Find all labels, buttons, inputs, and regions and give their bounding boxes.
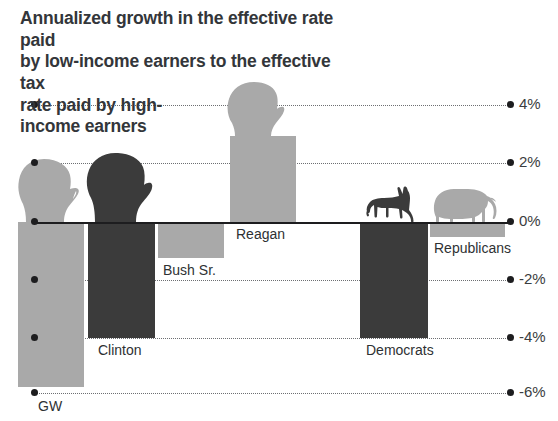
tick-dot-right-4: [507, 101, 514, 108]
bar-label-republicans: Republicans: [434, 240, 511, 256]
bar-label-reagan: Reagan: [236, 226, 285, 242]
tick-dot-right-minus-2: [507, 276, 514, 283]
gridline-minus-6: [34, 393, 510, 394]
ytick-label-minus-4: -4%: [519, 328, 546, 345]
bar-label-democrats: Democrats: [366, 342, 434, 358]
donkey-icon: [366, 186, 426, 223]
ytick-label-minus-2: -2%: [519, 270, 546, 287]
gridline-minus-4: [34, 338, 510, 339]
ytick-label-0: 0%: [519, 212, 541, 229]
tick-dot-right-minus-4: [507, 334, 514, 341]
page-title: Annualized growth in the effective rate …: [20, 8, 350, 138]
bar-label-gw: GW: [38, 398, 62, 414]
bar-clinton[interactable]: [88, 222, 155, 338]
bar-label-clinton: Clinton: [98, 342, 142, 358]
head-silhouette-light-icon: [14, 158, 88, 222]
axis-zero-line: [34, 222, 510, 224]
tick-dot-right-minus-6: [507, 389, 514, 396]
tick-dot-left-minus-4: [31, 334, 38, 341]
head-silhouette-dark-icon: [84, 152, 160, 222]
bar-bush-sr[interactable]: [158, 222, 224, 258]
bar-republicans[interactable]: [430, 222, 505, 237]
tick-dot-right-2: [507, 159, 514, 166]
ytick-label-minus-6: -6%: [519, 383, 546, 400]
tick-dot-left-0: [31, 218, 38, 225]
tick-dot-right-0: [507, 218, 514, 225]
ytick-label-2: 2%: [519, 153, 541, 170]
tick-dot-left-2: [31, 159, 38, 166]
ytick-label-4: 4%: [519, 95, 541, 112]
bar-gw[interactable]: [18, 222, 84, 387]
tick-dot-left-minus-2: [31, 276, 38, 283]
chart-page: Annualized growth in the effective rate …: [0, 0, 558, 421]
elephant-icon: [432, 188, 502, 223]
bar-reagan[interactable]: [230, 136, 296, 222]
bar-label-bush-sr: Bush Sr.: [163, 262, 216, 278]
bar-democrats[interactable]: [360, 222, 428, 338]
tick-dot-left-minus-6: [31, 389, 38, 396]
